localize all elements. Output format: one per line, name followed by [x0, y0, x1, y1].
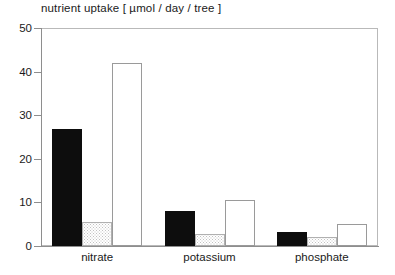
bar-potassium-black [165, 211, 195, 246]
bar-nitrate-stippled [82, 222, 112, 246]
bar-nitrate-open [112, 63, 142, 246]
bar-nitrate-black [52, 129, 82, 246]
x-axis-label-nitrate: nitrate [81, 251, 113, 263]
nutrient-uptake-bar-chart: nutrient uptake [ µmol / day / tree ] 01… [0, 0, 395, 275]
bars-layer [0, 0, 395, 275]
x-axis-label-potassium: potassium [183, 251, 235, 263]
x-axis-label-phosphate: phosphate [295, 251, 349, 263]
bar-phosphate-open [337, 224, 367, 246]
bar-phosphate-black [277, 232, 307, 246]
bar-potassium-stippled [195, 234, 225, 246]
bar-phosphate-stippled [307, 237, 337, 246]
bar-potassium-open [225, 200, 255, 246]
